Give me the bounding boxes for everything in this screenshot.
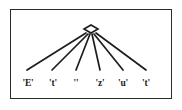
leaf-label-3: '' [74, 78, 79, 89]
leaf-label-4: 'z' [96, 78, 105, 89]
leaf-label-2: 't' [49, 78, 57, 89]
root-diamond-node [84, 25, 98, 33]
tree-canvas [0, 0, 182, 110]
tree-edge-root-to-leaf-6 [96, 33, 146, 70]
leaf-label-6: 't' [142, 78, 150, 89]
tree-edge-group [27, 33, 146, 70]
leaf-label-1: 'E' [22, 78, 33, 89]
leaf-label-5: 'u' [118, 78, 128, 89]
figure-root: 'E' 't' '' 'z' 'u' 't' [0, 0, 182, 110]
